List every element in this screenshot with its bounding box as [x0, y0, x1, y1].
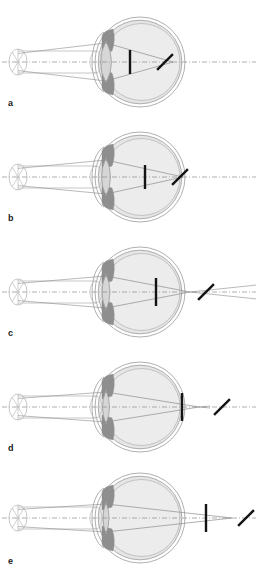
- iris-upper: [102, 485, 114, 510]
- panel-label-d: d: [8, 443, 14, 453]
- panel-label-b: b: [8, 213, 14, 223]
- panel-d: [2, 362, 256, 452]
- panel-label-a: a: [8, 98, 14, 108]
- iris-lower: [102, 526, 114, 551]
- diverging-ray-lower: [190, 285, 256, 292]
- panel-b: [2, 132, 256, 222]
- panel-a: [2, 17, 256, 107]
- panel-c: [2, 247, 256, 337]
- panel-label-e: e: [8, 556, 13, 566]
- diagonal-bar-target: [238, 510, 254, 526]
- diagonal-bar-target: [198, 284, 214, 300]
- eye-optics-figure: abcde: [0, 0, 259, 576]
- panel-e: [2, 473, 256, 563]
- panel-label-c: c: [8, 328, 13, 338]
